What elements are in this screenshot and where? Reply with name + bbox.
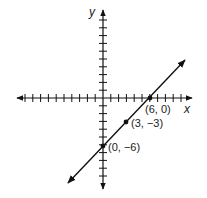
- x-axis-label: x: [183, 102, 191, 116]
- point-0-neg6: [101, 144, 106, 149]
- point-label-0-neg6: (0, −6): [108, 141, 140, 153]
- y-axis-label: y: [88, 5, 96, 19]
- coordinate-graph: y x (6, 0) (3, −3) (0, −6): [0, 0, 207, 198]
- point-6-0: [148, 96, 153, 101]
- point-3-neg3: [124, 120, 129, 125]
- point-label-6-0: (6, 0): [145, 103, 171, 115]
- point-label-3-neg3: (3, −3): [131, 117, 163, 129]
